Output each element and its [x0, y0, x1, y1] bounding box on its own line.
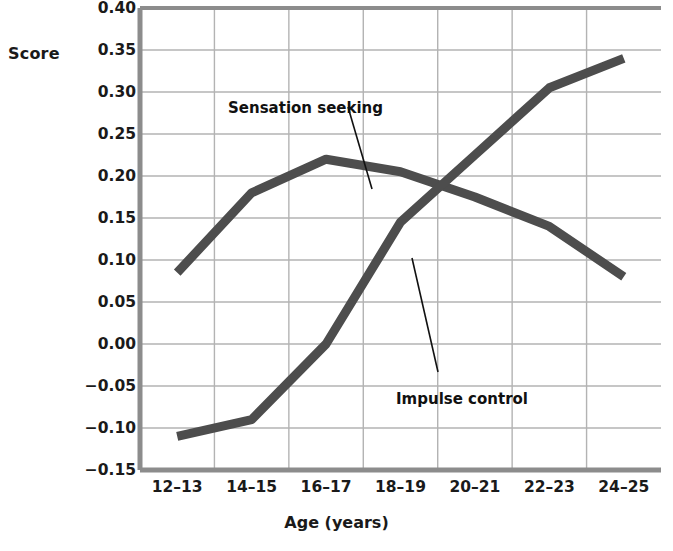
chart-figure: Score 0.400.350.300.250.200.150.100.050.… — [0, 0, 673, 551]
annotation-label-impulse-control: Impulse control — [396, 390, 528, 408]
x-tick-label: 20–21 — [449, 478, 500, 496]
x-axis-tick-labels: 12–1314–1516–1718–1920–2122–2324–25 — [0, 470, 673, 498]
x-tick-label: 14–15 — [226, 478, 277, 496]
x-tick-label: 18–19 — [375, 478, 426, 496]
annotation-leader-impulse-control — [412, 258, 438, 372]
x-tick-label: 16–17 — [301, 478, 352, 496]
annotation-label-sensation-seeking: Sensation seeking — [228, 99, 383, 117]
x-tick-label: 22–23 — [524, 478, 575, 496]
x-axis-title: Age (years) — [0, 513, 673, 532]
plot-area — [0, 0, 673, 551]
x-tick-label: 12–13 — [152, 478, 203, 496]
chart-canvas — [0, 0, 673, 551]
x-tick-label: 24–25 — [598, 478, 649, 496]
